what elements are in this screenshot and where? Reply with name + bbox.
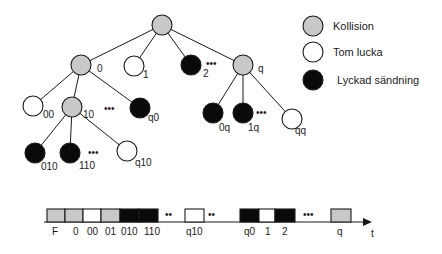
slot-F xyxy=(47,209,65,222)
node-label-1: 1 xyxy=(143,69,149,80)
tree-nodes: 0 1 2 ••• q 00 10 ••• q0 0q 1q ••• qq 01… xyxy=(23,15,306,172)
node-label-010: 010 xyxy=(41,161,58,172)
slot-label-2: 2 xyxy=(282,226,288,237)
tree-edges xyxy=(33,25,292,153)
node-0 xyxy=(71,55,91,75)
legend-success-icon xyxy=(303,70,323,90)
slot-label-00: 00 xyxy=(87,226,99,237)
slot-q xyxy=(331,209,351,222)
slot-label-1: 1 xyxy=(265,226,271,237)
ellipsis-level2-right: ••• xyxy=(256,107,267,118)
slot-label-01: 01 xyxy=(105,226,117,237)
slot-q0 xyxy=(240,209,259,222)
tree-splitting-diagram: 0 1 2 ••• q 00 10 ••• q0 0q 1q ••• qq 01… xyxy=(0,0,442,254)
node-label-q0: q0 xyxy=(148,112,160,123)
node-label-qq: qq xyxy=(295,125,306,136)
ellipsis-level1: ••• xyxy=(206,58,217,69)
slot-1 xyxy=(259,209,275,222)
node-10 xyxy=(62,97,82,117)
node-label-2: 2 xyxy=(203,68,209,79)
node-label-q: q xyxy=(258,63,264,74)
node-label-0: 0 xyxy=(97,63,103,74)
slot-label-q: q xyxy=(337,226,343,237)
slot-label-q10: q10 xyxy=(186,226,203,237)
node-110 xyxy=(60,143,80,163)
legend-collision-icon xyxy=(303,16,323,36)
slot-label-q0: q0 xyxy=(244,226,256,237)
ellipsis-level3: ••• xyxy=(88,147,99,158)
legend-empty-label: Tom lucka xyxy=(333,46,383,58)
node-label-110: 110 xyxy=(79,160,95,171)
node-label-1q: 1q xyxy=(248,122,259,133)
node-q0 xyxy=(130,98,150,118)
node-0q xyxy=(203,103,223,123)
slot-010 xyxy=(120,209,139,222)
slot-0 xyxy=(65,209,83,222)
legend-collision-label: Kollision xyxy=(333,20,374,32)
legend-success-label: Lyckad sändning xyxy=(337,74,419,86)
node-root xyxy=(152,15,172,35)
time-axis-label: t xyxy=(371,228,374,239)
slot-01 xyxy=(101,209,120,222)
node-q xyxy=(233,55,253,75)
timeline-gap-2: •• xyxy=(208,209,216,220)
node-010 xyxy=(25,143,45,163)
node-2 xyxy=(181,55,201,75)
node-label-10: 10 xyxy=(83,109,95,120)
slot-label-0: 0 xyxy=(73,226,79,237)
slot-00 xyxy=(83,209,101,222)
edge-root-q xyxy=(162,25,243,65)
node-q10 xyxy=(117,141,137,161)
node-00 xyxy=(23,96,43,116)
timeline: t •• •• ••• F 0 00 01 010 110 q10 q0 1 2… xyxy=(44,209,374,239)
node-1q xyxy=(233,103,253,123)
time-axis-arrow-icon xyxy=(363,218,372,226)
legend-empty-icon xyxy=(303,42,323,62)
node-label-0q: 0q xyxy=(219,122,230,133)
slot-label-010: 010 xyxy=(121,226,138,237)
slot-label-F: F xyxy=(52,226,58,237)
timeline-gap-1: •• xyxy=(165,209,173,220)
ellipsis-level2-left: ••• xyxy=(104,103,115,114)
edge-root-0 xyxy=(81,25,162,65)
node-label-q10: q10 xyxy=(135,157,152,168)
edge-10-q10 xyxy=(72,107,127,151)
slot-label-110: 110 xyxy=(144,226,160,237)
node-label-00: 00 xyxy=(43,109,55,120)
slot-110 xyxy=(139,209,158,222)
node-1 xyxy=(124,56,144,76)
slot-q10 xyxy=(185,209,204,222)
legend: Kollision Tom lucka Lyckad sändning xyxy=(303,16,419,90)
timeline-gap-3: ••• xyxy=(303,209,314,220)
slot-2 xyxy=(275,209,295,222)
